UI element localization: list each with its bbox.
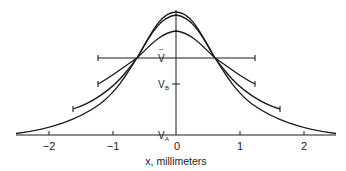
svg-text:B: B bbox=[165, 85, 169, 91]
svg-text:V: V bbox=[158, 130, 165, 141]
tick-label-neg2: −2 bbox=[43, 140, 56, 152]
tick-label-2: 2 bbox=[301, 140, 307, 152]
x-axis-label: x, millimeters bbox=[145, 155, 206, 167]
svg-text:A: A bbox=[165, 136, 169, 142]
svg-text:–: – bbox=[159, 44, 164, 53]
vbar-label: V – bbox=[158, 44, 165, 64]
tick-label-1: 1 bbox=[237, 140, 243, 152]
potential-distribution-chart: −2 −1 0 1 2 x, millimeters V – V B V A bbox=[0, 0, 346, 171]
svg-text:V: V bbox=[158, 53, 165, 64]
vb-label: V B bbox=[158, 79, 169, 91]
tick-label-0: 0 bbox=[174, 140, 180, 152]
svg-text:V: V bbox=[158, 79, 165, 90]
va-label: V A bbox=[158, 130, 169, 142]
tick-label-neg1: −1 bbox=[107, 140, 120, 152]
